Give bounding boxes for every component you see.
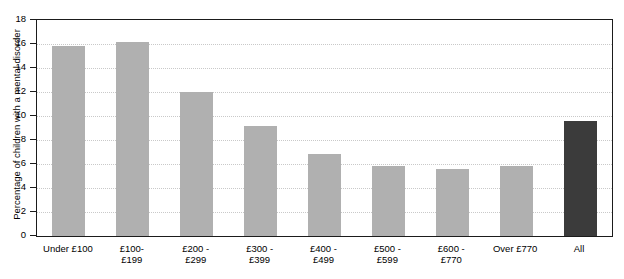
x-axis-label-8: Over £770 xyxy=(483,243,547,254)
y-axis-tick-label: 0 xyxy=(0,230,26,240)
x-axis-label-line1: £500 - xyxy=(355,243,419,254)
x-axis-label-line2: £399 xyxy=(228,254,292,265)
y-axis-tick xyxy=(30,91,36,92)
y-axis-tick-label: 8 xyxy=(0,134,26,144)
x-axis-label-5: £400 -£499 xyxy=(292,243,356,265)
x-axis-label-line2: £770 xyxy=(419,254,483,265)
bar-2 xyxy=(116,42,149,236)
y-axis-tick-label: 18 xyxy=(0,14,26,24)
bar-6 xyxy=(372,166,405,236)
x-axis-label-4: £300 -£399 xyxy=(228,243,292,265)
bar-1 xyxy=(52,46,85,236)
x-axis-label-9: All xyxy=(547,243,611,254)
bar-9 xyxy=(564,121,597,236)
x-axis-label-line1: £300 - xyxy=(228,243,292,254)
x-axis-label-3: £200 -£299 xyxy=(164,243,228,265)
bar-8 xyxy=(500,166,533,236)
x-axis-label-line2: £599 xyxy=(355,254,419,265)
y-axis-tick xyxy=(30,43,36,44)
y-axis-tick-label: 14 xyxy=(0,62,26,72)
bar-5 xyxy=(308,154,341,236)
x-axis-label-1: Under £100 xyxy=(36,243,100,254)
y-axis-tick xyxy=(30,163,36,164)
bar-7 xyxy=(436,169,469,236)
x-axis-label-line1: £400 - xyxy=(292,243,356,254)
x-axis-label-6: £500 -£599 xyxy=(355,243,419,265)
y-axis-tick-label: 16 xyxy=(0,38,26,48)
y-axis-tick-label: 10 xyxy=(0,110,26,120)
y-axis-tick-label: 12 xyxy=(0,86,26,96)
x-axis-label-line2: £499 xyxy=(292,254,356,265)
y-axis-tick-label: 2 xyxy=(0,206,26,216)
x-axis-label-line1: Under £100 xyxy=(36,243,100,254)
y-axis-tick xyxy=(30,211,36,212)
bar-3 xyxy=(180,92,213,236)
bar-4 xyxy=(244,126,277,236)
x-axis-label-line1: Over £770 xyxy=(483,243,547,254)
x-axis-label-line2: £199 xyxy=(100,254,164,265)
plot-area xyxy=(36,19,613,237)
x-axis-label-line2: £299 xyxy=(164,254,228,265)
y-axis-tick-label: 6 xyxy=(0,158,26,168)
chart-title-cropped xyxy=(0,0,624,8)
plot-inner xyxy=(37,20,612,236)
y-axis-tick xyxy=(30,139,36,140)
x-axis-label-2: £100-£199 xyxy=(100,243,164,265)
y-axis-tick-label: 4 xyxy=(0,182,26,192)
y-axis-tick xyxy=(30,235,36,236)
x-axis-label-line1: £100- xyxy=(100,243,164,254)
x-axis-label-line1: £600 - xyxy=(419,243,483,254)
y-axis-tick xyxy=(30,187,36,188)
bar-chart: Percentage of children with a mental dis… xyxy=(0,0,624,279)
x-axis-tick-labels: Under £100£100-£199£200 -£299£300 -£399£… xyxy=(0,243,624,279)
y-axis-tick xyxy=(30,115,36,116)
x-axis-label-line1: All xyxy=(547,243,611,254)
x-axis-label-line1: £200 - xyxy=(164,243,228,254)
y-axis-tick xyxy=(30,67,36,68)
x-axis-label-7: £600 -£770 xyxy=(419,243,483,265)
y-axis-tick xyxy=(30,19,36,20)
